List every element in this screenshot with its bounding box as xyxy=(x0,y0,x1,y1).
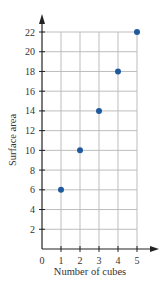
x-tick-label: 0 xyxy=(40,255,45,266)
y-tick-label: 20 xyxy=(25,46,35,57)
scatter-chart: 246810121416182022 012345 Number of cube… xyxy=(0,0,165,291)
y-tick-label: 18 xyxy=(25,66,35,77)
y-tick-label: 6 xyxy=(30,184,35,195)
x-tick-label: 2 xyxy=(78,255,83,266)
data-point xyxy=(134,29,140,35)
y-tick-label: 2 xyxy=(30,224,35,235)
y-tick-label: 8 xyxy=(30,165,35,176)
grid-lines xyxy=(42,32,137,249)
x-tick-label: 5 xyxy=(135,255,140,266)
data-point xyxy=(77,147,83,153)
y-axis-arrow-icon xyxy=(39,14,45,24)
x-tick-label: 4 xyxy=(116,255,121,266)
x-axis-title: Number of cubes xyxy=(54,266,126,277)
y-tick-label: 10 xyxy=(25,145,35,156)
y-tick-label: 14 xyxy=(25,105,35,116)
y-axis-title: Surface area xyxy=(7,114,18,167)
data-point xyxy=(115,68,121,74)
x-tick-label: 1 xyxy=(59,255,64,266)
y-tick-label: 4 xyxy=(30,204,35,215)
x-tick-label: 3 xyxy=(97,255,102,266)
data-point xyxy=(58,187,64,193)
y-tick-label: 16 xyxy=(25,86,35,97)
x-axis-arrow-icon xyxy=(150,246,159,252)
y-tick-label: 22 xyxy=(25,27,35,38)
data-point xyxy=(96,108,102,114)
y-tick-label: 12 xyxy=(25,125,35,136)
